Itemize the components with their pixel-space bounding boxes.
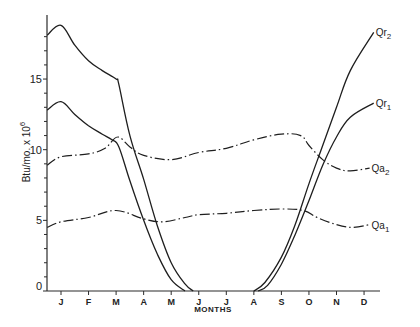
x-tick-label: M [112, 297, 120, 307]
x-tick-label: F [86, 297, 92, 307]
x-tick-label: A [251, 297, 258, 307]
series-label-qa1: Qa1 [372, 220, 390, 234]
y-axis-title-exponent: 6 [18, 121, 27, 126]
y-axis-title-main: Btu/mo. x 10 [21, 126, 32, 183]
chart: 051015 JFMAMJJASOND Qr2Qr1Qa2Qa1 MONTHS … [0, 0, 420, 327]
x-tick-label: J [58, 297, 63, 307]
x-tick-label: O [305, 297, 312, 307]
x-tick-label: A [140, 297, 147, 307]
x-axis-title: MONTHS [194, 305, 232, 314]
x-tick-label: S [278, 297, 284, 307]
axes [47, 15, 380, 291]
x-tick-label: D [361, 297, 368, 307]
series-label-qr1: Qr1 [376, 98, 392, 112]
curve-qr2-rising [254, 32, 374, 291]
series-labels: Qr2Qr1Qa2Qa1 [372, 27, 392, 233]
curve-qa2 [47, 134, 369, 171]
y-tick-label: 15 [30, 73, 42, 85]
series-label-qa2: Qa2 [372, 163, 390, 177]
series-label-qr2: Qr2 [376, 27, 392, 41]
curves [47, 25, 374, 291]
x-tick-label: M [167, 297, 175, 307]
svg-text:Btu/mo. x 106: Btu/mo. x 106 [18, 121, 32, 182]
y-axis-title: Btu/mo. x 106 [18, 121, 32, 182]
y-tick-label: 0 [36, 280, 42, 292]
y-tick-label: 5 [36, 214, 42, 226]
curve-qr1-rising [258, 103, 374, 291]
curve-qa1 [47, 209, 369, 227]
x-tick-label: N [333, 297, 340, 307]
y-ticks: 051015 [30, 37, 47, 292]
curve-qr1 [47, 102, 185, 291]
curve-qr2 [47, 25, 193, 291]
